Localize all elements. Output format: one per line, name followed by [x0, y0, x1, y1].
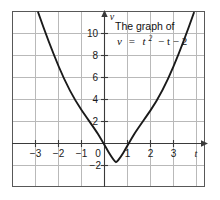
formula-rest: − t − 2	[158, 35, 187, 47]
caption-line-1: The graph of	[115, 20, 175, 32]
y-tick-label--2: −2	[90, 160, 102, 171]
x-axis-name: t	[195, 148, 198, 159]
parabola-graph-svg: −3 −2 −1 0 1 2 3 10 8 6 4 2 −2 v t The g…	[0, 0, 220, 200]
y-tick-label-6: 6	[92, 72, 98, 83]
x-tick-label--1: −1	[76, 148, 88, 159]
formula-equals: =	[129, 35, 135, 47]
formula-exponent: 2	[148, 34, 152, 43]
y-tick-label-10: 10	[87, 28, 99, 39]
x-tick-label-2: 2	[148, 148, 154, 159]
y-tick-label-4: 4	[92, 94, 98, 105]
x-tick-label--3: −3	[30, 148, 42, 159]
y-tick-label-8: 8	[92, 50, 98, 61]
x-tick-label-3: 3	[171, 148, 177, 159]
formula-base: t	[143, 35, 147, 47]
formula-lhs: v	[117, 35, 122, 47]
x-tick-label--2: −2	[53, 148, 65, 159]
x-tick-label-0: 0	[95, 148, 101, 159]
y-tick-label-2: 2	[92, 116, 98, 127]
graph-figure: −3 −2 −1 0 1 2 3 10 8 6 4 2 −2 v t The g…	[0, 0, 220, 200]
